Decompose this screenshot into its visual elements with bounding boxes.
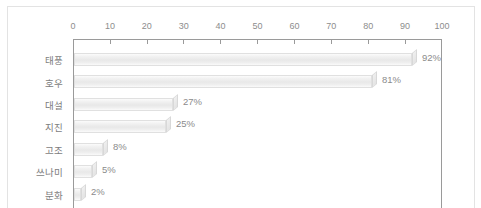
bar-value-label: 92% [422, 52, 441, 63]
bar-end-cap [92, 161, 97, 178]
x-tick-label: 20 [142, 20, 152, 32]
category-label: 호우 [45, 78, 63, 89]
y-axis-labels: 태풍 호우 대설 지진 고조 쓰나미 분화 [0, 0, 69, 208]
category-label: 대설 [45, 100, 63, 111]
bar-end-cap [81, 184, 86, 201]
bar [74, 75, 372, 88]
x-tick-label: 10 [105, 20, 115, 32]
bar-value-label: 2% [91, 186, 105, 197]
bar-end-cap [372, 71, 377, 88]
bar [74, 143, 103, 156]
bar [74, 120, 166, 133]
x-tick-label: 50 [252, 20, 262, 32]
x-tick-label: 60 [289, 20, 299, 32]
bar [74, 188, 81, 201]
bar [74, 53, 412, 66]
bar-value-label: 5% [102, 164, 116, 175]
bar-value-label: 27% [183, 96, 202, 107]
bars-layer: 92% 81% 27% 25% 8% 5% [74, 39, 442, 208]
category-label: 쓰나미 [36, 167, 63, 178]
bar-end-cap [173, 94, 178, 111]
bar-value-label: 8% [113, 141, 127, 152]
category-label: 지진 [45, 122, 63, 133]
category-label: 고조 [45, 145, 63, 156]
bar [74, 98, 173, 111]
x-axis-labels: 0 10 20 30 40 50 60 70 80 90 100 [73, 20, 442, 34]
bar-end-cap [103, 139, 108, 156]
bar-end-cap [412, 49, 417, 66]
bar-value-label: 81% [382, 74, 401, 85]
x-tick-label: 90 [400, 20, 410, 32]
bar [74, 165, 92, 178]
bar-end-cap [166, 116, 171, 133]
category-label: 분화 [45, 190, 63, 201]
bar-chart: 0 10 20 30 40 50 60 70 80 90 100 태풍 호우 대… [0, 0, 481, 208]
x-tick-label: 70 [326, 20, 336, 32]
bar-value-label: 25% [176, 118, 195, 129]
x-tick-label: 40 [216, 20, 226, 32]
x-tick-label: 0 [70, 20, 75, 32]
x-tick-label: 100 [434, 20, 449, 32]
x-tick-label: 80 [363, 20, 373, 32]
x-tick-label: 30 [179, 20, 189, 32]
category-label: 태풍 [45, 55, 63, 66]
